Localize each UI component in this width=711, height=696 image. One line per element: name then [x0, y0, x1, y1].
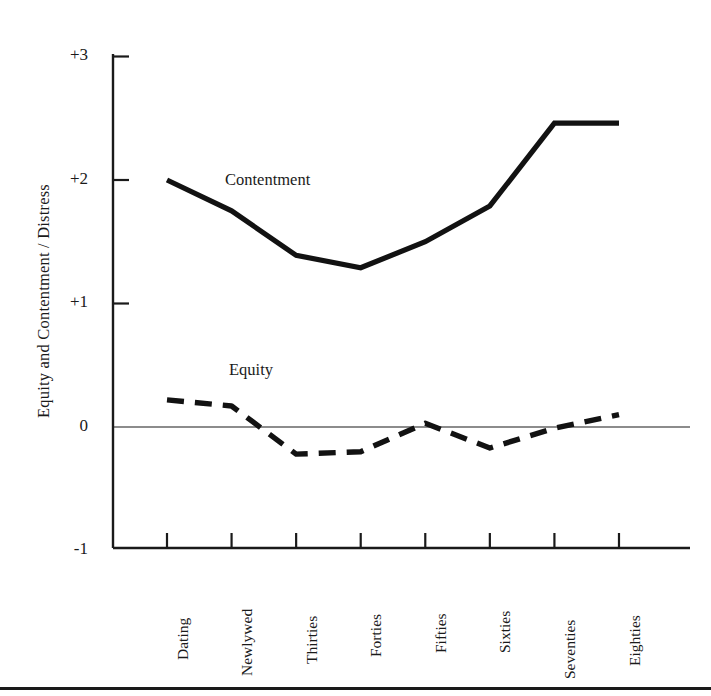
chart-figure: Equity and Contentment / Distress +3 +2 …	[0, 0, 711, 696]
y-tick-marks	[113, 57, 129, 551]
x-tick-marks	[167, 533, 619, 548]
plot-area	[0, 0, 711, 696]
axis-lines	[113, 54, 690, 548]
series-line-contentment	[167, 123, 619, 267]
page-bottom-rule	[0, 687, 711, 690]
